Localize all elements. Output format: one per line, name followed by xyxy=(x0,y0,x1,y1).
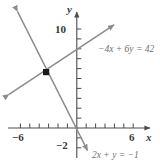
intersection-point-marker xyxy=(43,69,49,75)
y-axis-name-label: y xyxy=(67,4,72,15)
x-axis xyxy=(8,124,150,129)
graph-figure: −4x + 6y = 42 2x + y = −1 −6 6 10 −2 x y xyxy=(0,0,160,166)
x-axis-tick-label-positive-six: 6 xyxy=(129,132,135,143)
x-axis-name-label: x xyxy=(146,132,152,143)
y-axis-tick-label-negative-two: −2 xyxy=(56,140,68,151)
x-axis-tick-label-negative-six: −6 xyxy=(12,132,24,143)
y-axis-tick-label-ten: 10 xyxy=(55,24,66,35)
equation-2-label: 2x + y = −1 xyxy=(92,151,139,161)
line-equation-1 xyxy=(9,25,114,95)
coordinate-plane xyxy=(0,0,160,166)
equation-1-label: −4x + 6y = 42 xyxy=(98,45,154,55)
